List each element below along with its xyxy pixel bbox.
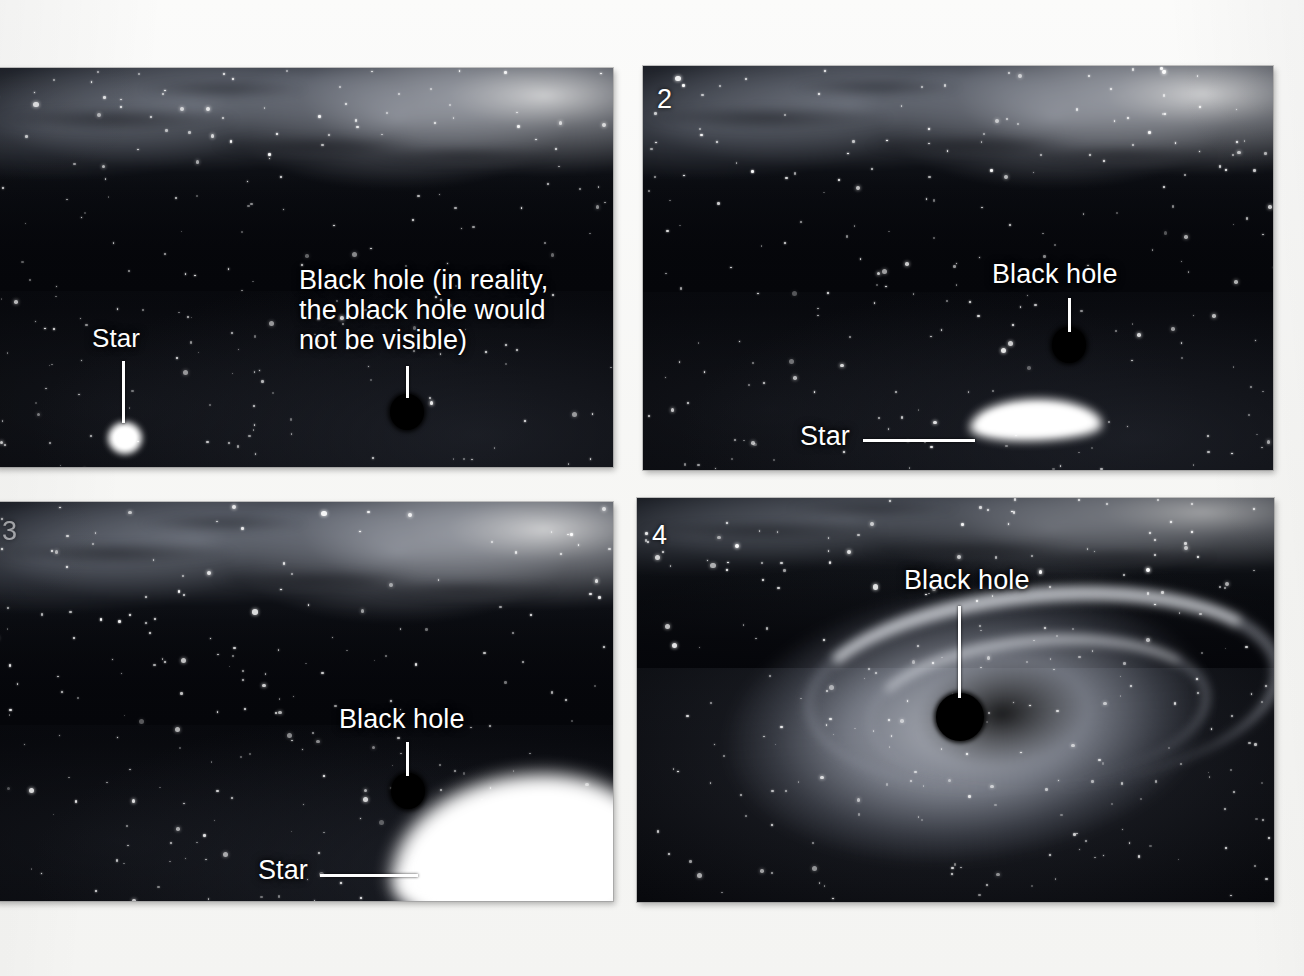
star-dot <box>9 664 11 666</box>
star-dot <box>24 744 26 746</box>
star-dot <box>719 85 722 88</box>
star-dot <box>241 527 244 530</box>
star-dot <box>1188 271 1190 273</box>
star-dot <box>454 207 456 209</box>
star-dot <box>1233 366 1235 368</box>
star-dot <box>773 459 775 461</box>
star-dot <box>648 190 650 192</box>
star-dot <box>400 753 402 755</box>
star-dot <box>231 797 233 799</box>
star-dot <box>9 714 11 716</box>
star-dot <box>360 897 362 899</box>
black-hole-disc <box>390 394 424 430</box>
star-dot <box>1253 508 1255 510</box>
star-dot <box>127 845 129 847</box>
star-dot <box>829 685 834 690</box>
star-dot <box>314 900 316 901</box>
star-dot <box>440 789 442 791</box>
star-dot <box>242 670 244 672</box>
star-dot <box>1029 705 1031 707</box>
black-hole-label: Black hole <box>904 565 1030 595</box>
star-dot <box>1225 847 1227 849</box>
star-dot <box>785 790 787 792</box>
star-dot <box>1208 772 1210 774</box>
star-dot <box>1211 728 1213 730</box>
star-dot <box>293 696 295 698</box>
star-dot <box>33 102 39 108</box>
star-dot <box>372 746 376 750</box>
star-dot <box>980 667 982 669</box>
star-dot <box>254 371 256 373</box>
star-dot <box>1087 548 1089 550</box>
star-dot <box>771 872 773 874</box>
star-dot <box>873 730 875 732</box>
star-dot <box>524 420 526 422</box>
star-dot <box>1255 340 1257 342</box>
star-dot <box>686 715 688 717</box>
star-dot <box>1076 833 1078 835</box>
star-dot <box>914 771 916 773</box>
star-dot <box>1060 465 1062 467</box>
star-dot <box>137 149 139 151</box>
star-dot <box>923 785 925 787</box>
star-dot <box>483 652 485 654</box>
star-dot <box>1102 762 1104 764</box>
star-dot <box>1224 808 1226 810</box>
star-dot <box>697 464 699 466</box>
star-dot <box>68 777 70 779</box>
star-dot <box>1181 342 1183 344</box>
star-dot <box>185 273 187 275</box>
star-dot <box>1178 859 1180 861</box>
star-dot <box>873 584 879 590</box>
star-dot <box>953 265 955 267</box>
star-dot <box>833 734 835 736</box>
star-dot <box>57 676 59 678</box>
star-dot <box>595 579 599 583</box>
star-dot <box>1123 662 1125 664</box>
star-dot <box>386 112 388 114</box>
star-dot <box>928 143 930 145</box>
star-dot <box>102 165 106 169</box>
star-dot <box>689 860 691 862</box>
star-dot <box>838 179 840 181</box>
star-dot <box>1058 780 1060 782</box>
star-dot <box>954 863 956 865</box>
star-dot <box>1163 186 1166 189</box>
star-dot <box>1175 142 1177 144</box>
star-dot <box>1127 117 1130 120</box>
star-dot <box>910 780 912 782</box>
star-dot <box>1268 837 1270 839</box>
star-dot <box>987 656 991 660</box>
star-dot <box>596 205 600 209</box>
star-dot <box>374 660 376 662</box>
star-dot <box>53 79 55 81</box>
star-dot <box>164 253 166 255</box>
star-dot <box>990 169 993 172</box>
star-dot <box>25 135 28 138</box>
star-dot <box>530 614 532 616</box>
star-dot <box>1140 798 1142 800</box>
star-dot <box>400 628 402 630</box>
star-leader-line <box>320 874 418 877</box>
star-dot <box>203 834 205 836</box>
star-dot <box>179 747 181 749</box>
star-dot <box>886 140 888 142</box>
star-dot <box>73 163 76 166</box>
star-dot <box>789 359 794 364</box>
star-dot <box>1157 499 1159 501</box>
star-dot <box>207 571 211 575</box>
star-dot <box>1027 295 1029 297</box>
star-dot <box>980 630 982 632</box>
star-dot <box>321 672 323 674</box>
star-dot <box>196 160 200 164</box>
star-dot <box>933 421 937 425</box>
star-dot <box>1172 205 1174 207</box>
star-dot <box>447 263 449 265</box>
star-dot <box>29 788 34 793</box>
star-dot <box>1193 315 1195 317</box>
star-dot <box>769 675 771 677</box>
star-dot <box>1234 280 1238 284</box>
star-dot <box>699 647 701 649</box>
star-dot <box>645 532 648 535</box>
black-hole-leader-line <box>406 742 409 776</box>
